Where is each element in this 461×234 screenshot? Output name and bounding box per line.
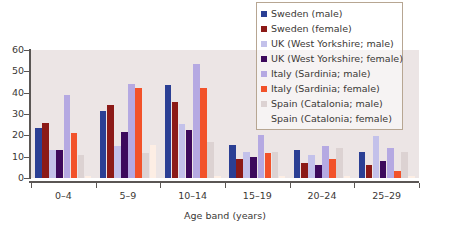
bar — [121, 132, 128, 178]
legend-swatch-icon — [261, 86, 267, 92]
x-axis-tick — [225, 183, 226, 188]
x-axis-tick — [354, 183, 355, 188]
x-axis-category-label: 5–9 — [96, 191, 161, 201]
legend-item-label: Spain (Catalonia; female) — [271, 114, 392, 124]
bar — [128, 84, 135, 178]
bar — [135, 88, 142, 178]
legend-item[interactable]: Sweden (male) — [261, 6, 398, 21]
y-axis-tick-label: 20 — [0, 130, 24, 140]
y-axis-tick-label: 60 — [0, 45, 24, 55]
bar-chart: 0102030405060 0–45–910–1415–1920–2425–29… — [0, 0, 461, 234]
x-axis-tick — [290, 183, 291, 188]
bar — [394, 171, 401, 178]
x-axis-category-label: 25–29 — [354, 191, 419, 201]
bar — [308, 155, 315, 178]
bar — [193, 64, 200, 178]
legend-item[interactable]: Spain (Catalonia; male) — [261, 96, 398, 111]
bar — [301, 163, 308, 178]
x-axis-title: Age band (years) — [31, 210, 419, 221]
bar — [78, 155, 85, 178]
y-axis-tick-label: 40 — [0, 88, 24, 98]
legend-item-label: Italy (Sardinia; female) — [271, 84, 380, 94]
legend-swatch-icon — [261, 116, 267, 122]
legend-item[interactable]: Spain (Catalonia; female) — [261, 111, 398, 126]
legend-swatch-icon — [261, 56, 267, 62]
bar — [229, 145, 236, 178]
bar-group — [160, 50, 225, 178]
x-axis-line — [29, 181, 419, 183]
legend-item[interactable]: Italy (Sardinia; female) — [261, 81, 398, 96]
bar — [258, 135, 265, 178]
bar — [344, 176, 351, 178]
legend-swatch-icon — [261, 41, 267, 47]
bar — [380, 161, 387, 178]
legend-item[interactable]: UK (West Yorkshire; female) — [261, 51, 398, 66]
bar — [387, 148, 394, 178]
bar — [107, 105, 114, 178]
legend-item-label: Italy (Sardinia; male) — [271, 69, 371, 79]
x-axis-category-label: 0–4 — [31, 191, 96, 201]
bar — [236, 159, 243, 178]
bar — [56, 150, 63, 178]
bar-group — [31, 50, 96, 178]
legend-item-label: Sweden (male) — [271, 9, 343, 19]
bar — [142, 153, 149, 178]
bar — [243, 152, 250, 178]
bar — [272, 152, 279, 178]
legend-item-label: Spain (Catalonia; male) — [271, 99, 383, 109]
legend-item[interactable]: Sweden (female) — [261, 21, 398, 36]
bar — [200, 88, 207, 178]
x-axis-category-label: 20–24 — [290, 191, 355, 201]
bar — [265, 153, 272, 178]
bar — [114, 146, 121, 178]
legend-swatch-icon — [261, 26, 267, 32]
bar — [71, 133, 78, 178]
bar — [322, 146, 329, 178]
bar-group — [96, 50, 161, 178]
bar — [172, 102, 179, 178]
bar — [329, 159, 336, 178]
y-axis-tick-label: 0 — [0, 173, 24, 183]
x-axis-tick — [96, 183, 97, 188]
bar — [49, 150, 56, 178]
bar — [64, 95, 71, 178]
bar — [214, 176, 221, 178]
bar — [100, 111, 107, 178]
bar — [359, 152, 366, 178]
legend-item[interactable]: Italy (Sardinia; male) — [261, 66, 398, 81]
legend-item-label: UK (West Yorkshire; female) — [271, 54, 403, 64]
y-axis-tick-label: 50 — [0, 66, 24, 76]
x-axis-tick — [160, 183, 161, 188]
bar — [315, 165, 322, 178]
legend-item-label: UK (West Yorkshire; male) — [271, 39, 394, 49]
x-axis-category-label: 15–19 — [225, 191, 290, 201]
legend-swatch-icon — [261, 11, 267, 17]
y-axis-tick-label: 10 — [0, 152, 24, 162]
bar — [35, 128, 42, 178]
legend-swatch-icon — [261, 101, 267, 107]
legend-item-label: Sweden (female) — [271, 24, 352, 34]
y-axis-tick-label: 30 — [0, 109, 24, 119]
bar — [373, 136, 380, 178]
chart-legend: Sweden (male)Sweden (female)UK (West Yor… — [256, 2, 403, 130]
legend-item[interactable]: UK (West Yorkshire; male) — [261, 36, 398, 51]
bar — [279, 176, 286, 178]
bar — [179, 124, 186, 178]
bar — [408, 176, 415, 178]
x-axis-tick — [419, 183, 420, 188]
bar — [366, 165, 373, 178]
bar — [401, 152, 408, 178]
bar — [165, 85, 172, 178]
x-axis-category-label: 10–14 — [160, 191, 225, 201]
x-axis-tick — [31, 183, 32, 188]
bar — [207, 142, 214, 178]
bar — [150, 145, 157, 178]
bar — [336, 148, 343, 179]
bar — [85, 176, 92, 178]
legend-swatch-icon — [261, 71, 267, 77]
bar — [294, 150, 301, 178]
bar — [186, 130, 193, 178]
bar — [250, 157, 257, 178]
bar — [42, 123, 49, 178]
